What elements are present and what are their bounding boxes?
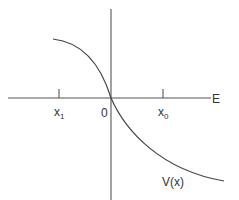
tick-label-x1: x1 <box>54 105 65 121</box>
potential-curve <box>53 39 224 181</box>
curve-label: V(x) <box>162 175 184 189</box>
axis-label-e: E <box>212 92 220 106</box>
origin-label: 0 <box>101 106 108 120</box>
tick-label-x0: x0 <box>158 105 169 121</box>
potential-diagram: E 0 x1 x0 V(x) <box>0 0 239 200</box>
